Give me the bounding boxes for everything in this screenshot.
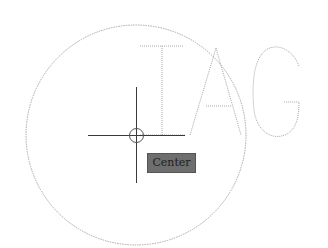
snap-tooltip: Center xyxy=(147,153,196,173)
snap-tooltip-label: Center xyxy=(152,156,190,169)
drawing-geometry xyxy=(0,0,328,248)
drawing-canvas[interactable]: Center xyxy=(0,0,328,248)
text-letter-i[interactable] xyxy=(140,46,185,135)
text-letter-g[interactable] xyxy=(253,47,299,136)
text-letter-a[interactable] xyxy=(190,48,241,135)
